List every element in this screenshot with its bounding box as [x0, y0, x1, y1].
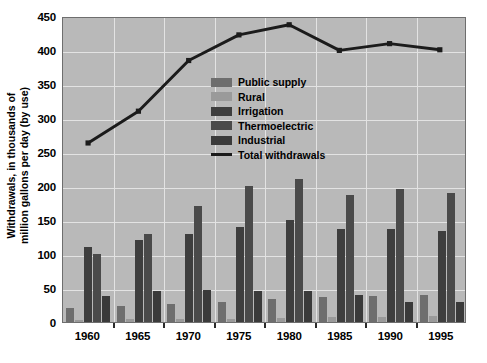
- legend-item: Thermoelectric: [211, 119, 325, 134]
- legend-swatch-icon: [211, 107, 232, 116]
- line-marker: [287, 22, 292, 27]
- legend-swatch-icon: [211, 121, 232, 130]
- x-tick-label: 1985: [327, 330, 352, 342]
- x-tick-mark: [315, 323, 317, 328]
- x-tick-label: 1970: [176, 330, 201, 342]
- line-marker: [337, 48, 342, 53]
- legend-item: Irrigation: [211, 104, 325, 119]
- legend-swatch-icon: [211, 78, 232, 87]
- line-marker: [186, 58, 191, 63]
- x-tick-label: 1990: [378, 330, 403, 342]
- y-axis-title-line1: Withdrawals, in thousands of: [5, 92, 17, 238]
- legend-label: Industrial: [238, 134, 285, 146]
- x-tick-mark: [214, 323, 216, 328]
- y-tick-label: 50: [22, 283, 56, 295]
- legend-label: Public supply: [238, 76, 306, 88]
- legend-label: Rural: [238, 91, 265, 103]
- legend-swatch-icon: [211, 136, 232, 145]
- legend: Public supplyRuralIrrigationThermoelectr…: [211, 75, 325, 162]
- legend-item: Total withdrawals: [211, 148, 325, 163]
- legend-label: Thermoelectric: [238, 120, 313, 132]
- line-marker: [85, 140, 90, 145]
- x-tick-label: 1965: [125, 330, 150, 342]
- y-tick-label: 200: [22, 181, 56, 193]
- legend-swatch-icon: [211, 92, 232, 101]
- x-tick-label: 1975: [226, 330, 251, 342]
- legend-line-marker-icon: [211, 153, 232, 156]
- x-tick-mark: [264, 323, 266, 328]
- x-tick-mark: [163, 323, 165, 328]
- legend-item: Industrial: [211, 133, 325, 148]
- chart-figure: Withdrawals, in thousands of million gal…: [0, 0, 487, 363]
- y-tick-label: 0: [22, 317, 56, 329]
- legend-item: Rural: [211, 90, 325, 105]
- line-marker: [437, 47, 442, 52]
- x-tick-label: 1960: [75, 330, 100, 342]
- total-withdrawals-line: [63, 18, 465, 322]
- y-tick-label: 300: [22, 113, 56, 125]
- x-tick-mark: [416, 323, 418, 328]
- y-tick-label: 400: [22, 45, 56, 57]
- line-marker: [236, 32, 241, 37]
- y-tick-label: 450: [22, 11, 56, 23]
- plot-area: Public supplyRuralIrrigationThermoelectr…: [62, 17, 466, 323]
- y-tick-label: 250: [22, 147, 56, 159]
- x-tick-label: 1995: [428, 330, 453, 342]
- y-axis-ticks: 050100150200250300350400450: [22, 0, 56, 363]
- line-marker: [387, 41, 392, 46]
- legend-label: Total withdrawals: [238, 149, 325, 161]
- legend-item: Public supply: [211, 75, 325, 90]
- x-tick-mark: [113, 323, 115, 328]
- y-tick-label: 350: [22, 79, 56, 91]
- x-tick-mark: [365, 323, 367, 328]
- x-tick-label: 1980: [277, 330, 302, 342]
- y-tick-label: 100: [22, 249, 56, 261]
- y-tick-label: 150: [22, 215, 56, 227]
- legend-label: Irrigation: [238, 105, 284, 117]
- line-marker: [136, 109, 141, 114]
